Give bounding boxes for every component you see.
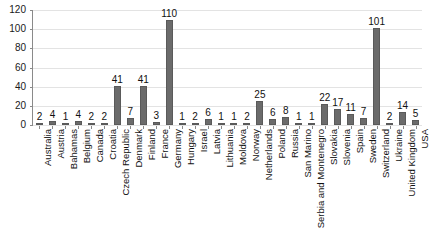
bar[interactable]	[373, 28, 380, 125]
x-tick-label: Czech Republic	[121, 129, 131, 244]
y-tick-label: 20	[0, 101, 26, 111]
x-tick-label: Ukraine	[394, 129, 404, 244]
bar[interactable]	[360, 118, 367, 125]
x-tick-label: Netherlands	[264, 129, 274, 244]
x-tick-label: Moldova	[238, 129, 248, 244]
x-tick-label: Serbia and Montenegro	[316, 129, 326, 244]
bar-slot: 2	[34, 10, 45, 125]
bar[interactable]	[36, 123, 43, 125]
x-tick-label: United Kingdom	[407, 129, 417, 244]
x-tick-label: Germany	[173, 129, 183, 244]
x-tick-label: Switzerland	[381, 129, 391, 244]
bar-slot: 41	[138, 10, 149, 125]
bar[interactable]	[192, 123, 199, 125]
bar-slot: 6	[203, 10, 214, 125]
bar-slot: 101	[371, 10, 382, 125]
bar[interactable]	[269, 119, 276, 125]
bar-slot: 7	[125, 10, 136, 125]
bar-slot: 1	[177, 10, 188, 125]
bar-slot: 1	[293, 10, 304, 125]
bar-slot: 110	[164, 10, 175, 125]
x-tick-label: Slovenia	[342, 129, 352, 244]
bar-slot: 22	[319, 10, 330, 125]
x-tick-label: France	[160, 129, 170, 244]
x-tick-label: Spain	[355, 129, 365, 244]
bar-slot: 2	[86, 10, 97, 125]
x-tick-label: Denmark	[134, 129, 144, 244]
x-tick-label: Sweden	[368, 129, 378, 244]
bar-value-label: 5	[403, 109, 428, 119]
bar-slot: 5	[410, 10, 421, 125]
y-tick-label: 60	[0, 63, 26, 73]
bar-slot: 8	[280, 10, 291, 125]
bar[interactable]	[153, 122, 160, 125]
bar-slot: 4	[47, 10, 58, 125]
x-tick-label: Australia	[43, 129, 53, 244]
x-tick-label: Russia	[290, 129, 300, 244]
bar-slot: 1	[60, 10, 71, 125]
bar[interactable]	[88, 123, 95, 125]
bar-slot: 1	[216, 10, 227, 125]
x-tick-label: Hungary	[186, 129, 196, 244]
y-tick-label: 100	[0, 24, 26, 34]
bar[interactable]	[308, 123, 315, 125]
bar-slot: 3	[151, 10, 162, 125]
x-tick-label: Canada	[95, 129, 105, 244]
y-tick-label: 80	[0, 43, 26, 53]
y-tick-label: 0	[0, 120, 26, 130]
bar-slot: 4	[73, 10, 84, 125]
x-tick-label: USA	[420, 129, 430, 244]
bar-slot: 7	[358, 10, 369, 125]
bar-chart: 020406080100120 241422417413110126112256…	[0, 0, 434, 252]
bar[interactable]	[62, 123, 69, 125]
bar[interactable]	[114, 86, 121, 125]
y-tick-mark	[30, 125, 33, 126]
bar[interactable]	[179, 123, 186, 125]
x-tick-label: Israel	[199, 129, 209, 244]
bar[interactable]	[230, 123, 237, 125]
bar-slot: 1	[228, 10, 239, 125]
bar[interactable]	[386, 123, 393, 125]
x-tick-label: Latvia	[212, 129, 222, 244]
x-tick-label: Poland	[277, 129, 287, 244]
bar[interactable]	[101, 123, 108, 125]
bar[interactable]	[218, 123, 225, 125]
x-tick-label: Croatia	[108, 129, 118, 244]
x-tick-label: Norway	[251, 129, 261, 244]
bar[interactable]	[166, 20, 173, 125]
bar-slot: 2	[241, 10, 252, 125]
x-tick-label: Finland	[147, 129, 157, 244]
bar-slot: 2	[99, 10, 110, 125]
bar[interactable]	[127, 118, 134, 125]
x-tick-label: San Marino	[303, 129, 313, 244]
bar[interactable]	[295, 123, 302, 125]
x-tick-label: Bahamas	[69, 129, 79, 244]
bar[interactable]	[412, 120, 419, 125]
bar[interactable]	[243, 123, 250, 125]
y-tick-label: 120	[0, 5, 26, 15]
x-tick-label: Austria	[56, 129, 66, 244]
x-tick-label: Lithuania	[225, 129, 235, 244]
bar-slot: 14	[397, 10, 408, 125]
y-tick-label: 40	[0, 82, 26, 92]
bar-slot: 1	[306, 10, 317, 125]
x-tick-label: Belgium	[82, 129, 92, 244]
x-tick-mark	[39, 126, 40, 129]
plot-area: 2414224174131101261122568112217117101214…	[33, 10, 422, 125]
x-tick-label: Slovakia	[329, 129, 339, 244]
